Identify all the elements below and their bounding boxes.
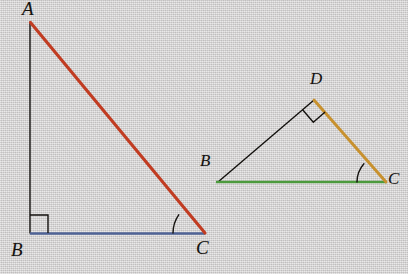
- vertex-label-a: A: [22, 0, 34, 18]
- angle-arc-marker-c-2: [357, 164, 364, 182]
- vertex-label-b: B: [11, 240, 23, 259]
- triangle-abc: [30, 22, 205, 234]
- geometry-figure: A B C B D C: [0, 0, 408, 274]
- vertex-label-d: D: [310, 70, 322, 87]
- vertex-label-c2: C: [388, 170, 399, 187]
- figure-canvas: [0, 0, 408, 274]
- side-ac-line: [31, 23, 206, 234]
- vertex-label-b2: B: [200, 152, 210, 169]
- triangle-bdc: [216, 100, 387, 182]
- right-angle-marker-d: [303, 110, 326, 123]
- angle-arc-marker-c: [173, 215, 179, 233]
- right-angle-marker-b: [30, 215, 48, 233]
- side-bd-line: [218, 100, 314, 182]
- vertex-label-c: C: [196, 238, 209, 257]
